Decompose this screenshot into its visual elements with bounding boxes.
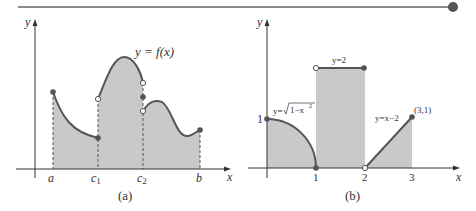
closed-point xyxy=(313,165,319,171)
svg-text:y=: y= xyxy=(273,106,283,116)
function-label: y = f(x) xyxy=(133,44,174,59)
label-endpoint: (3,1) xyxy=(414,105,431,115)
header-dot-icon xyxy=(448,2,458,12)
panel-b: y x 1 1 2 3 y= 1−x 2 y=2 y=x−2 (3,1) (b) xyxy=(248,15,462,203)
y-axis-label-b: y xyxy=(256,15,263,29)
tick-label-c2: c2 xyxy=(137,171,147,186)
y-axis-arrow-icon xyxy=(33,19,38,26)
tick-label-c1: c1 xyxy=(91,171,101,186)
x-axis-label-b: x xyxy=(455,170,462,184)
closed-point xyxy=(50,89,56,95)
open-point xyxy=(95,96,100,101)
figure: y x y = f(x) a c1 c2 b (a) y x 1 1 xyxy=(0,0,476,211)
caption-b: (b) xyxy=(345,188,360,203)
label-linear: y=x−2 xyxy=(375,113,399,123)
closed-point xyxy=(361,65,367,71)
closed-point xyxy=(140,94,146,100)
x-axis-label-a: x xyxy=(226,170,233,184)
closed-point xyxy=(197,127,203,133)
x-tick-1: 1 xyxy=(313,171,319,183)
y-axis-arrow-icon xyxy=(265,19,270,26)
closed-point xyxy=(95,135,101,141)
closed-point xyxy=(264,116,270,122)
y-axis-label-a: y xyxy=(24,15,31,29)
open-point xyxy=(362,165,367,170)
closed-point xyxy=(409,114,415,120)
panel-a: y x y = f(x) a c1 c2 b (a) xyxy=(16,15,233,203)
area-a-left xyxy=(53,92,98,169)
x-tick-3: 3 xyxy=(409,171,415,183)
open-point xyxy=(140,80,145,85)
tick-label-a: a xyxy=(48,171,54,185)
open-point xyxy=(140,108,145,113)
y-tick-1: 1 xyxy=(257,112,263,126)
label-semicircle: y= 1−x 2 xyxy=(273,103,315,116)
svg-text:2: 2 xyxy=(309,103,312,109)
area-a-mid xyxy=(98,57,143,169)
x-tick-2: 2 xyxy=(362,171,368,183)
label-constant: y=2 xyxy=(332,55,346,65)
tick-label-b: b xyxy=(196,171,202,185)
area-b-rect xyxy=(316,68,365,168)
open-point xyxy=(313,65,318,70)
svg-text:1−x: 1−x xyxy=(290,105,305,115)
caption-a: (a) xyxy=(118,188,132,203)
